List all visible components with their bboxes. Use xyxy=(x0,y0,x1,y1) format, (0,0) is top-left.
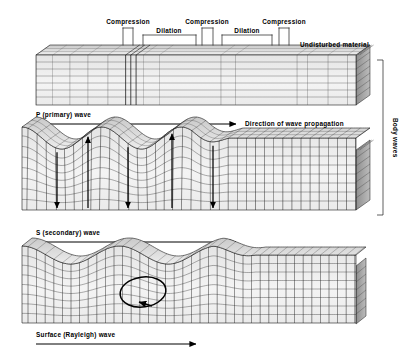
body-waves-bracket xyxy=(377,60,383,215)
bracket-compression-3 xyxy=(279,28,289,45)
bracket-compression-1 xyxy=(123,28,133,45)
label-direction-of-propagation: Direction of wave propagation xyxy=(245,121,344,127)
label-s-wave: S (secondary) wave xyxy=(36,230,100,236)
p-wave-block xyxy=(36,45,374,105)
p-block-front-face xyxy=(36,55,356,105)
diagram-canvas xyxy=(0,0,413,348)
surface-block-side-face xyxy=(356,258,366,324)
label-p-wave: P (primary) wave xyxy=(36,112,91,118)
label-undisturbed-material: Undisturbed material xyxy=(300,42,369,48)
s-block-side-face xyxy=(356,140,374,210)
label-body-waves: Body waves xyxy=(392,118,398,157)
label-compression-2: Compression xyxy=(185,19,229,25)
bracket-compression-2 xyxy=(202,28,213,45)
surface-wave-block xyxy=(22,238,366,324)
label-dilation-1: Dilation xyxy=(156,28,181,34)
label-compression-3: Compression xyxy=(262,19,306,25)
bracket-dilation-1 xyxy=(143,35,196,45)
label-surface-wave: Surface (Rayleigh) wave xyxy=(36,332,115,338)
label-compression-1: Compression xyxy=(106,19,150,25)
s-wave-block xyxy=(22,117,374,210)
bracket-dilation-2 xyxy=(222,35,272,45)
compression-dilation-brackets xyxy=(123,28,289,45)
figure-root: Compression Dilation Compression Dilatio… xyxy=(0,0,413,348)
p-block-side-face xyxy=(356,45,374,105)
label-dilation-2: Dilation xyxy=(234,28,259,34)
